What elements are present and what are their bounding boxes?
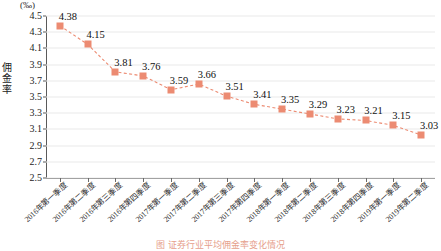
data-point-marker[interactable] [168, 86, 175, 93]
data-point-marker[interactable] [390, 122, 397, 129]
data-point-label: 3.03 [420, 120, 438, 131]
data-point-label: 4.38 [59, 11, 77, 22]
data-point-label: 3.41 [253, 89, 271, 100]
data-point-label: 3.81 [114, 57, 132, 68]
data-point-marker[interactable] [140, 72, 147, 79]
y-tick-label: 2.5 [30, 173, 47, 183]
data-point-label: 3.51 [225, 81, 243, 92]
data-point-label: 3.35 [281, 94, 299, 105]
data-point-marker[interactable] [279, 106, 286, 113]
x-tick-mark [366, 178, 367, 182]
data-point-marker[interactable] [112, 68, 119, 75]
y-tick-label: 4.5 [30, 11, 47, 21]
data-point-label: 3.15 [392, 110, 410, 121]
y-tick-label: 3.7 [30, 76, 47, 86]
y-tick-label: 2.7 [30, 157, 47, 167]
y-tick-label: 3.9 [30, 60, 47, 70]
data-point-marker[interactable] [362, 117, 369, 124]
data-point-marker[interactable] [251, 101, 258, 108]
y-tick-label: 4.1 [30, 43, 47, 53]
data-point-marker[interactable] [223, 93, 230, 100]
y-tick-label: 2.9 [30, 141, 47, 151]
data-point-label: 4.15 [86, 29, 104, 40]
figure-caption: 图 证券行业平均佣金率变化情况 [0, 240, 441, 251]
y-tick-label: 4.3 [30, 27, 47, 37]
data-point-marker[interactable] [195, 81, 202, 88]
data-point-label: 3.29 [309, 99, 327, 110]
data-point-marker[interactable] [56, 22, 63, 29]
data-point-label: 3.59 [170, 75, 188, 86]
data-point-marker[interactable] [84, 41, 91, 48]
y-axis-title: 佣金率 [0, 62, 13, 95]
y-tick-label: 3.3 [30, 108, 47, 118]
data-point-marker[interactable] [418, 132, 425, 139]
data-point-label: 3.76 [142, 61, 160, 72]
data-point-label: 3.66 [198, 69, 216, 80]
data-point-marker[interactable] [334, 115, 341, 122]
y-tick-label: 3.1 [30, 124, 47, 134]
data-point-marker[interactable] [306, 111, 313, 118]
plot-area: 4.54.34.13.93.73.53.33.12.92.72.5 4.384.… [46, 16, 435, 178]
data-point-label: 3.23 [337, 104, 355, 115]
data-point-label: 3.21 [364, 105, 382, 116]
y-tick-label: 3.5 [30, 92, 47, 102]
x-tick-mark [227, 178, 228, 182]
